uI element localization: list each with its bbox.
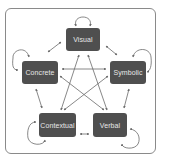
edge-visual-verbal	[88, 55, 107, 110]
edge-visual-contextual	[61, 55, 79, 110]
edge-visual-symbolic	[106, 46, 117, 55]
node-visual-label: Visual	[73, 36, 93, 43]
node-verbal: Verbal	[93, 113, 127, 137]
node-visual: Visual	[66, 28, 100, 51]
node-symbolic: Symbolic	[110, 61, 146, 84]
node-contextual-label: Contextual	[40, 122, 74, 129]
edge-symbolic-verbal	[124, 89, 129, 108]
node-concrete-label: Concrete	[25, 69, 54, 76]
node-concrete: Concrete	[22, 61, 58, 84]
loop-visual	[76, 17, 91, 26]
node-contextual: Contextual	[39, 113, 76, 137]
edge-concrete-contextual	[36, 89, 42, 108]
node-symbolic-label: Symbolic	[113, 69, 142, 76]
edge-visual-concrete	[48, 42, 61, 52]
node-verbal-label: Verbal	[100, 122, 120, 129]
